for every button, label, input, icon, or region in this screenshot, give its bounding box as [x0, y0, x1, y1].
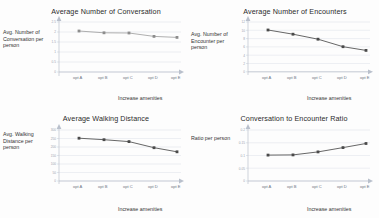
- svg-text:opt D: opt D: [148, 184, 158, 189]
- gridlines: [59, 22, 181, 72]
- svg-text:opt C: opt C: [123, 75, 133, 80]
- gridlines: [248, 22, 370, 72]
- svg-text:6: 6: [243, 45, 245, 49]
- svg-text:opt A: opt A: [262, 75, 272, 80]
- svg-text:1.5: 1.5: [52, 40, 57, 44]
- svg-text:50: 50: [52, 171, 56, 175]
- svg-text:8: 8: [243, 37, 245, 41]
- svg-text:opt E: opt E: [360, 184, 370, 189]
- x-axis-label: Increase amenities: [118, 95, 162, 101]
- x-axis: opt A opt B opt C opt D opt E: [248, 179, 373, 189]
- svg-text:0: 0: [243, 179, 245, 183]
- y-axis: 12 10 8 6 4 2 0: [241, 16, 250, 75]
- plot-area: 12 10 8 6 4 2 0 opt A opt B opt C opt D …: [229, 18, 374, 90]
- svg-text:0.15: 0.15: [239, 141, 245, 145]
- svg-text:opt A: opt A: [262, 184, 272, 189]
- svg-text:opt B: opt B: [98, 184, 108, 189]
- svg-text:0.2: 0.2: [241, 128, 246, 132]
- plot-svg: 0.2 0.15 0.1 0.05 0 opt A opt B opt C op…: [229, 125, 374, 199]
- figure-canvas: Average Number of Conversation Avg. Numb…: [0, 0, 379, 218]
- x-axis-label: Increase amenities: [118, 206, 162, 212]
- svg-text:opt B: opt B: [98, 75, 108, 80]
- plot-area: 2.5 2 1.5 1 0.5 0 opt A opt B opt C opt …: [40, 18, 185, 90]
- svg-text:1: 1: [54, 50, 56, 54]
- svg-text:250: 250: [51, 137, 57, 141]
- svg-text:0: 0: [54, 179, 56, 183]
- chart-panel-ratio: Conversation to Encounter Ratio Ratio pe…: [189, 108, 379, 218]
- svg-text:300: 300: [51, 128, 57, 132]
- y-axis: 0.2 0.15 0.1 0.05 0: [239, 124, 251, 184]
- svg-text:opt C: opt C: [312, 184, 322, 189]
- svg-text:opt C: opt C: [123, 184, 133, 189]
- y-axis: 300 250 200 150 100 50 0: [51, 124, 62, 184]
- data-series: [78, 30, 179, 39]
- svg-text:4: 4: [243, 54, 245, 58]
- gridlines: [59, 130, 181, 181]
- svg-text:100: 100: [51, 162, 57, 166]
- svg-text:200: 200: [51, 145, 57, 149]
- svg-text:opt B: opt B: [287, 184, 297, 189]
- svg-text:2: 2: [54, 30, 56, 34]
- svg-text:0: 0: [243, 70, 245, 74]
- data-series: [267, 142, 368, 156]
- x-axis-label: Increase amenities: [307, 206, 351, 212]
- svg-text:opt D: opt D: [337, 184, 347, 189]
- svg-text:2.5: 2.5: [52, 20, 57, 24]
- x-axis: opt A opt B opt C opt D opt E: [248, 69, 373, 80]
- plot-svg: 12 10 8 6 4 2 0 opt A opt B opt C opt D …: [229, 18, 374, 90]
- plot-svg: 2.5 2 1.5 1 0.5 0 opt A opt B opt C opt …: [40, 18, 185, 90]
- svg-text:opt E: opt E: [171, 75, 181, 80]
- chart-title: Average Number of Encounters: [217, 7, 373, 16]
- svg-text:150: 150: [51, 154, 57, 158]
- chart-panel-encounters: Average Number of Encounters Avg. Number…: [189, 0, 379, 109]
- svg-text:opt E: opt E: [171, 184, 181, 189]
- data-series: [78, 137, 179, 153]
- x-axis-label: Increase amenities: [307, 95, 351, 101]
- chart-title: Average Walking Distance: [28, 114, 184, 123]
- svg-text:opt A: opt A: [73, 184, 83, 189]
- svg-text:opt D: opt D: [337, 75, 347, 80]
- plot-area: 300 250 200 150 100 50 0 opt A opt B opt…: [40, 125, 185, 199]
- chart-title: Average Number of Conversation: [28, 7, 184, 16]
- svg-text:opt A: opt A: [73, 75, 83, 80]
- chart-panel-conversation: Average Number of Conversation Avg. Numb…: [0, 0, 190, 109]
- svg-text:10: 10: [241, 29, 245, 33]
- svg-text:opt D: opt D: [148, 75, 158, 80]
- svg-text:2: 2: [243, 62, 245, 66]
- y-axis: 2.5 2 1.5 1 0.5 0: [52, 16, 62, 76]
- svg-text:0.5: 0.5: [52, 60, 57, 64]
- plot-area: 0.2 0.15 0.1 0.05 0 opt A opt B opt C op…: [229, 125, 374, 199]
- plot-svg: 300 250 200 150 100 50 0 opt A opt B opt…: [40, 125, 185, 199]
- svg-text:opt C: opt C: [312, 75, 322, 80]
- gridlines: [248, 130, 370, 181]
- data-series: [267, 29, 368, 52]
- x-axis: opt A opt B opt C opt D opt E: [59, 70, 184, 80]
- svg-text:0.05: 0.05: [239, 167, 245, 171]
- chart-panel-walking-distance: Average Walking Distance Avg. Walking Di…: [0, 108, 190, 218]
- svg-text:12: 12: [241, 20, 245, 24]
- svg-text:opt B: opt B: [287, 75, 297, 80]
- svg-text:0: 0: [54, 70, 56, 74]
- x-axis: opt A opt B opt C opt D opt E: [59, 179, 184, 189]
- svg-text:opt E: opt E: [360, 75, 370, 80]
- chart-title: Conversation to Encounter Ratio: [215, 114, 373, 123]
- svg-text:0.1: 0.1: [241, 154, 246, 158]
